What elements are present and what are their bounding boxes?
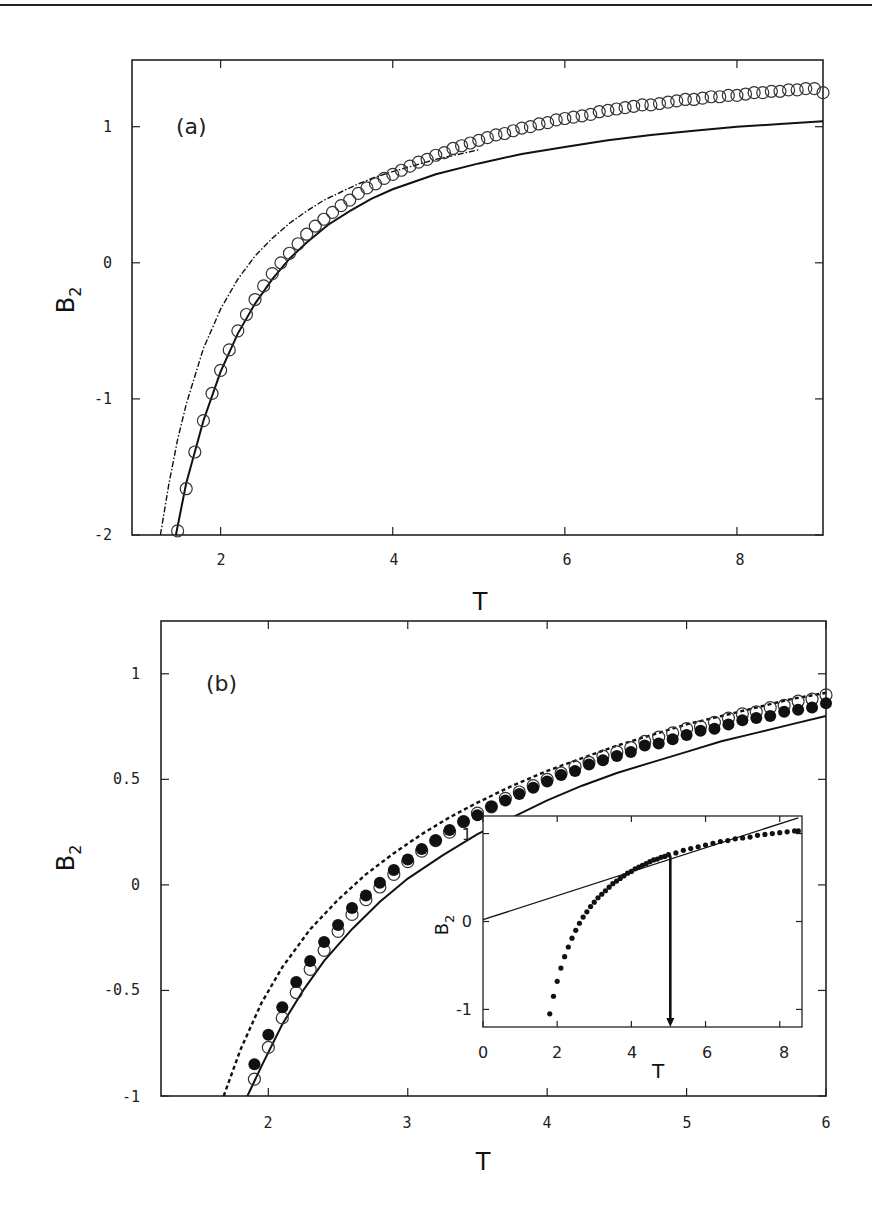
open-circle-marker [740,88,752,100]
dashdot-curve [160,150,478,535]
inset-xtick-2: 2 [552,1043,562,1062]
dot-marker [547,1011,552,1016]
open-circle-marker [292,238,304,250]
inset-ytick-1: 1 [462,825,472,844]
filled-circle-marker [276,1001,288,1013]
inset-xaxis-title: T [651,1059,665,1083]
open-circle-marker [619,102,631,114]
dot-marker [569,936,574,941]
inset-xtick-6: 6 [702,1043,712,1062]
filled-circle-marker [430,835,442,847]
dot-marker [681,848,686,853]
dot-marker [770,831,775,836]
panel-a-axes-frame [132,60,823,535]
dot-marker [785,829,790,834]
panel-b-xaxis-title: T [475,1148,491,1176]
filled-circle-marker [695,725,707,737]
dot-marker [696,844,701,849]
filled-circle-marker [764,710,776,722]
panel-b-ytick-neg1: -1 [122,1088,140,1106]
filled-circle-marker [722,718,734,730]
panel-a-xtick-6: 6 [562,551,571,569]
open-circle-marker [602,104,614,116]
panel-a-yaxis-title-main: B [52,297,80,313]
dot-marker [777,830,782,835]
panel-b-xtick-2: 2 [263,1114,272,1132]
open-circle-marker [290,987,302,999]
filled-circle-marker [318,936,330,948]
dot-marker [573,928,578,933]
filled-circle-marker [667,733,679,745]
filled-circle-marker [750,712,762,724]
panel-a: (a) 1 0 -1 -2 2 4 6 8 T B2 [52,60,829,616]
open-circle-marker [318,213,330,225]
open-circle-marker [671,95,683,107]
panel-b-yaxis-title-main: B [52,855,80,871]
open-circle-marker [507,125,519,137]
dot-marker [558,965,563,970]
filled-circle-marker [778,706,790,718]
open-circle-marker [567,111,579,123]
filled-circle-marker [402,854,414,866]
filled-circle-marker [527,782,539,794]
filled-circle-marker [471,809,483,821]
open-circle-marker [714,91,726,103]
panel-a-ytick-0: 0 [103,254,112,272]
filled-circle-marker [583,759,595,771]
open-circle-marker [593,106,605,118]
filled-circle-marker [653,737,665,749]
filled-circle-marker [736,714,748,726]
panel-b-ytick-1: 1 [131,665,140,683]
filled-circle-marker [332,919,344,931]
open-circle-marker [533,118,545,130]
open-circle-marker [524,121,536,133]
open-circle-marker [645,99,657,111]
open-circle-marker [654,98,666,110]
panel-a-yaxis-title: B2 [52,287,85,314]
dot-marker [796,828,801,833]
panel-a-label: (a) [176,114,207,139]
filled-circle-marker [792,704,804,716]
panel-a-xaxis-title: T [472,588,488,616]
panel-b-xtick-6: 6 [821,1114,830,1132]
filled-circle-marker [597,754,609,766]
open-circle-marker [542,117,554,129]
open-circle-marker [610,103,622,115]
filled-circle-marker [444,824,456,836]
panel-a-ytick-neg1: -1 [94,390,112,408]
inset-yaxis-title-sub: 2 [442,915,457,923]
open-circle-marker [481,132,493,144]
dot-marker [592,900,597,905]
panel-a-ytick-1: 1 [103,118,112,136]
filled-circle-marker [708,723,720,735]
dot-marker [762,832,767,837]
open-circle-marker [490,129,502,141]
open-circle-marker [559,113,571,125]
open-circle-marker [464,137,476,149]
filled-circle-marker [416,843,428,855]
panel-a-xtick-8: 8 [735,551,744,569]
dot-marker [562,954,567,959]
open-circle-marker [791,84,803,96]
panel-b: (b) 1 0.5 0 -0.5 -1 2 3 4 5 6 T B2 1 0 -… [52,621,832,1176]
dot-marker [581,915,586,920]
open-circle-marker [628,100,640,112]
open-circle-marker [327,206,339,218]
open-circle-marker [335,200,347,212]
open-circle-marker [662,96,674,108]
open-circle-marker [344,194,356,206]
open-circle-marker [456,140,468,152]
filled-circle-marker [248,1058,260,1070]
filled-circle-marker [360,889,372,901]
panel-b-inset: 1 0 -1 0 2 4 6 8 T B2 [431,816,802,1083]
inset-ytick-neg1: -1 [456,1000,472,1019]
filled-circle-marker [513,788,525,800]
dot-marker [673,850,678,855]
panel-b-xtick-5: 5 [682,1114,691,1132]
filled-circle-marker [346,902,358,914]
inset-xtick-4: 4 [627,1043,637,1062]
dot-marker [577,921,582,926]
filled-circle-marker [290,976,302,988]
filled-circle-marker [611,750,623,762]
dot-marker [551,994,556,999]
